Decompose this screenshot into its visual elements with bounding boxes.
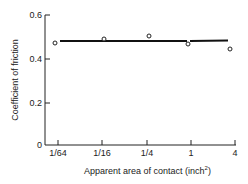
y-tick-label: 0.2 [29,98,42,108]
x-axis-label-main: Apparent area of contact (inch [84,166,205,176]
x-tick-label: 4 [232,148,237,158]
x-tick-label: 1/64 [49,148,67,158]
x-tick-label: 1 [188,148,193,158]
y-ticks [45,15,50,103]
y-tick-label: 0 [37,140,42,150]
x-tick-labels: 1/64 1/16 1/4 1 4 [49,148,237,158]
data-point [53,41,57,45]
data-points [53,34,232,51]
y-tick-labels: 0.6 0.4 0.2 0 [29,10,42,150]
data-point [147,34,151,38]
x-tick-label: 1/4 [141,148,154,158]
y-tick-label: 0.6 [29,10,42,20]
y-tick-label: 0.4 [29,54,42,64]
data-point [102,37,106,41]
friction-chart: 0.6 0.4 0.2 0 1/64 1/16 1/4 1 4 Coeffici… [0,0,248,184]
x-axis-label: Apparent area of contact (inch2) [84,165,211,176]
data-point [228,47,232,51]
mean-line-segment [190,41,228,42]
data-point [186,42,190,46]
x-ticks [58,140,235,145]
x-tick-label: 1/16 [93,148,111,158]
y-axis-label: Coefficient of friction [10,39,20,120]
x-axis-label-close: ) [208,166,211,176]
